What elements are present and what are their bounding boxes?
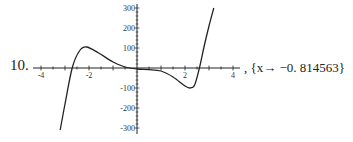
svg-text:-100: -100 (120, 84, 135, 93)
svg-text:-2: -2 (86, 71, 93, 80)
svg-text:100: 100 (123, 44, 135, 53)
solution-result: , {x→ −0. 814563} (244, 60, 345, 76)
svg-text:-200: -200 (120, 104, 135, 113)
svg-text:300: 300 (123, 4, 135, 13)
svg-text:200: 200 (123, 24, 135, 33)
svg-text:2: 2 (183, 71, 187, 80)
svg-text:4: 4 (231, 71, 235, 80)
svg-text:-4: -4 (38, 71, 45, 80)
svg-text:-300: -300 (120, 124, 135, 133)
